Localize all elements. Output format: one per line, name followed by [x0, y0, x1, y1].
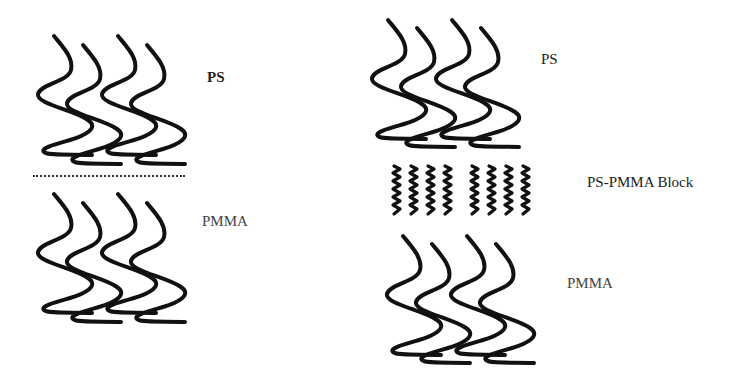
zigzag-chain-icon — [444, 166, 451, 214]
polymer-chain-icon — [480, 244, 534, 363]
label-right-block: PS-PMMA Block — [587, 174, 693, 191]
label-left-pmma: PMMA — [202, 213, 248, 230]
zigzag-chain-icon — [410, 166, 417, 214]
left-pmma-chains — [38, 194, 185, 322]
left-ps-chains — [38, 36, 185, 164]
polymer-chain-icon — [38, 36, 92, 155]
polymer-chain-icon — [465, 28, 519, 147]
label-right-ps: PS — [541, 51, 558, 68]
right-ps-chains — [372, 20, 519, 147]
interface-dotted-line — [33, 175, 185, 177]
polymer-chain-icon — [131, 45, 185, 164]
zigzag-chain-icon — [505, 166, 512, 214]
right-pmma-chains — [387, 236, 534, 363]
zigzag-chain-icon — [471, 166, 478, 214]
zigzag-chain-icon — [522, 166, 529, 214]
polymer-chain-icon — [436, 20, 490, 139]
polymer-chain-icon — [102, 36, 156, 155]
zigzag-chain-icon — [393, 166, 400, 214]
polymer-chain-icon — [102, 194, 156, 313]
right-block-copolymer-chains — [393, 166, 529, 214]
label-right-pmma: PMMA — [567, 275, 613, 292]
zigzag-chain-icon — [427, 166, 434, 214]
polymer-chain-icon — [131, 203, 185, 322]
polymer-chain-icon — [387, 236, 441, 355]
polymer-chain-icon — [38, 194, 92, 313]
zigzag-chain-icon — [488, 166, 495, 214]
polymer-chain-icon — [451, 236, 505, 355]
polymer-chain-icon — [372, 20, 426, 139]
label-left-ps: PS — [207, 69, 225, 86]
